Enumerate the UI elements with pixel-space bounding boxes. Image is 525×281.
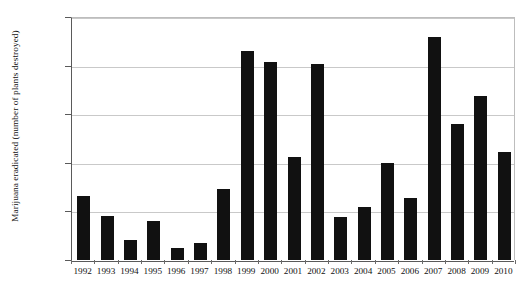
bar-2002 <box>311 64 324 260</box>
bar-2003 <box>334 217 347 260</box>
x-tick-1992 <box>71 260 72 264</box>
bar-2001 <box>288 157 301 260</box>
bar-1996 <box>171 248 184 260</box>
x-tick-2002 <box>305 260 306 264</box>
x-tick-2001 <box>281 260 282 264</box>
x-tick-1993 <box>94 260 95 264</box>
bar-2007 <box>428 37 441 260</box>
gridline-2000000 <box>72 67 514 68</box>
x-tick-1996 <box>164 260 165 264</box>
bar-chart-figure: Marijuana eradicated (number of plants d… <box>0 0 525 281</box>
bar-1999 <box>241 51 254 260</box>
bar-2010 <box>498 152 511 260</box>
bar-2005 <box>381 163 394 260</box>
bar-1994 <box>124 240 137 260</box>
bar-1998 <box>217 189 230 260</box>
gridline-2500000 <box>72 18 514 19</box>
x-label-2010: 2010 <box>488 266 518 277</box>
x-tick-1997 <box>188 260 189 264</box>
x-tick-2007 <box>422 260 423 264</box>
y-axis-title: Marijuana eradicated (number of plants d… <box>10 6 20 246</box>
bar-2006 <box>404 198 417 260</box>
plot-area <box>71 17 515 260</box>
x-tick-end <box>515 260 516 264</box>
x-tick-1999 <box>235 260 236 264</box>
bar-1995 <box>147 221 160 260</box>
bar-2008 <box>451 124 464 260</box>
bar-2004 <box>358 207 371 260</box>
bar-1993 <box>101 216 114 260</box>
x-tick-1995 <box>141 260 142 264</box>
x-tick-2000 <box>258 260 259 264</box>
bar-1997 <box>194 243 207 260</box>
x-tick-1998 <box>211 260 212 264</box>
x-tick-2006 <box>398 260 399 264</box>
x-tick-2009 <box>468 260 469 264</box>
bar-2009 <box>474 96 487 260</box>
x-tick-2005 <box>375 260 376 264</box>
x-tick-2010 <box>492 260 493 264</box>
x-tick-2003 <box>328 260 329 264</box>
gridline-1500000 <box>72 115 514 116</box>
x-tick-1994 <box>118 260 119 264</box>
x-tick-2004 <box>351 260 352 264</box>
gridline-0 <box>72 261 514 262</box>
x-tick-2008 <box>445 260 446 264</box>
bar-1992 <box>77 196 90 260</box>
bar-2000 <box>264 62 277 260</box>
